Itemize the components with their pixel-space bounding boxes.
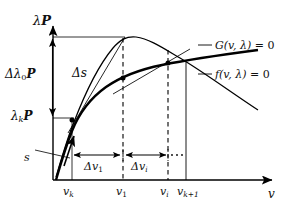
tick-label-vk1: vk+1 — [177, 186, 199, 198]
tick-label-vk: vk — [63, 186, 74, 198]
y-axis-label: λP — [33, 14, 51, 27]
lambda-k-p-label: λkP — [11, 110, 33, 123]
delta-v-i-label: Δvi — [131, 161, 148, 173]
marker-point-vk — [70, 118, 75, 123]
delta-lambda-0-p-label: Δλ0P — [5, 68, 36, 81]
delta-s-label: Δs — [72, 67, 87, 79]
guide-lines — [53, 37, 186, 180]
tick-label-vi: vi — [160, 186, 169, 198]
tangent-predictor-i — [113, 49, 190, 94]
delta-v-1-label: Δv1 — [84, 161, 103, 173]
figure-root: λP v Δλ0P λkP s Δs Δv1 Δvi vk v1 vi vk+1… — [0, 0, 296, 216]
legend-leaders — [198, 45, 212, 74]
slope-s-label: s — [24, 152, 30, 163]
ellipsis-dots — [171, 154, 183, 156]
marker-point-vi — [166, 61, 171, 66]
marker-point-v1 — [121, 76, 126, 81]
x-axis-label: v — [268, 188, 275, 200]
predictor-lines — [35, 37, 190, 166]
legend-label-G: G(v, λ) = 0 — [215, 40, 274, 51]
legend-label-f: f(v, λ) = 0 — [215, 69, 270, 80]
tick-label-v1: v1 — [116, 186, 127, 198]
diagram-canvas — [0, 0, 296, 216]
